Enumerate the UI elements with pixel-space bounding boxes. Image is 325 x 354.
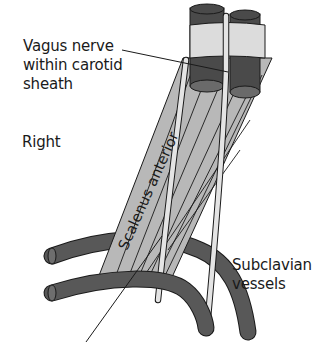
subclavian-label-line-1: Subclavian (232, 256, 312, 275)
subclavian-vein (48, 279, 206, 328)
vagus-nerve-label: Vagus nerve within carotid sheath (23, 37, 143, 94)
subclavian-label-line-2: vessels (232, 275, 312, 294)
vagus-label-line-2: within carotid (23, 56, 143, 75)
vagus-label-line-1: Vagus nerve (23, 37, 143, 56)
vagus-label-line-3: sheath (23, 75, 143, 94)
subclavian-vessels-label: Subclavian vessels (232, 256, 312, 294)
side-label: Right (22, 133, 61, 152)
